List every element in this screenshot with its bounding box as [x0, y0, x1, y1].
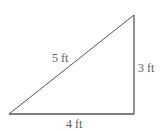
- hypotenuse-side: [9, 15, 134, 114]
- vertical-label: 3 ft: [138, 61, 155, 75]
- triangle-diagram: 5 ft 3 ft 4 ft: [0, 0, 166, 131]
- base-label: 4 ft: [66, 117, 83, 131]
- hypotenuse-label: 5 ft: [52, 51, 69, 65]
